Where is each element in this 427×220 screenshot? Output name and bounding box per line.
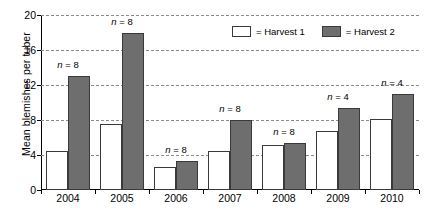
bar-group: n = 8 xyxy=(149,15,203,190)
bar-harvest-2 xyxy=(338,108,360,190)
bar-pair xyxy=(365,15,419,190)
bar-group: n = 8 xyxy=(203,15,257,190)
bar-harvest-2 xyxy=(68,76,90,190)
y-tick-label: 12 xyxy=(24,80,36,91)
plot-area: 048121620 n = 8n = 8n = 8n = 8n = 8n = 4… xyxy=(41,15,419,190)
x-tick-label: 2004 xyxy=(41,192,95,204)
bar-pair xyxy=(311,15,365,190)
bar-group: n = 8 xyxy=(95,15,149,190)
bar-harvest-1 xyxy=(370,119,392,190)
bar-harvest-1 xyxy=(208,151,230,190)
legend-label: = Harvest 1 xyxy=(256,26,305,37)
legend-item: = Harvest 1 xyxy=(232,26,305,37)
bar-group: n = 8 xyxy=(257,15,311,190)
y-tick-label: 0 xyxy=(30,185,36,196)
bar-harvest-1 xyxy=(316,131,338,191)
y-tick-label: 8 xyxy=(30,115,36,126)
bar-harvest-2 xyxy=(230,120,252,190)
x-tick-label: 2007 xyxy=(203,192,257,204)
bar-harvest-1 xyxy=(100,124,122,191)
bar-harvest-1 xyxy=(154,167,176,190)
bar-harvest-2 xyxy=(392,94,414,190)
x-tick-label: 2008 xyxy=(257,192,311,204)
bar-pair xyxy=(95,15,149,190)
bar-chart: Mean blemishes per tuber 048121620 n = 8… xyxy=(0,0,427,220)
legend-item: = Harvest 2 xyxy=(322,26,395,37)
bar-group: n = 8 xyxy=(41,15,95,190)
bar-harvest-1 xyxy=(262,145,284,190)
x-axis-labels: 2004200520062007200820092010 xyxy=(41,192,419,204)
bar-group: n = 4 xyxy=(365,15,419,190)
bar-harvest-2 xyxy=(176,161,198,190)
x-tick-label: 2009 xyxy=(311,192,365,204)
bar-harvest-1 xyxy=(46,151,68,190)
bar-pair xyxy=(257,15,311,190)
bar-group: n = 4 xyxy=(311,15,365,190)
chart-legend: = Harvest 1= Harvest 2 xyxy=(232,26,395,37)
legend-label: = Harvest 2 xyxy=(346,26,395,37)
x-tick-label: 2010 xyxy=(365,192,419,204)
x-tick-label: 2006 xyxy=(149,192,203,204)
bar-pair xyxy=(203,15,257,190)
x-tick-label: 2005 xyxy=(95,192,149,204)
bar-pair xyxy=(149,15,203,190)
y-tick-label: 20 xyxy=(24,10,36,21)
bar-pair xyxy=(41,15,95,190)
bar-groups: n = 8n = 8n = 8n = 8n = 8n = 4n = 4 xyxy=(41,15,419,190)
bar-harvest-2 xyxy=(284,143,306,190)
bar-harvest-2 xyxy=(122,33,144,191)
legend-swatch-harvest-1 xyxy=(232,26,251,37)
y-tick-label: 4 xyxy=(30,150,36,161)
legend-swatch-harvest-2 xyxy=(322,26,341,37)
y-tick-label: 16 xyxy=(24,45,36,56)
x-tick-mark xyxy=(419,190,420,194)
